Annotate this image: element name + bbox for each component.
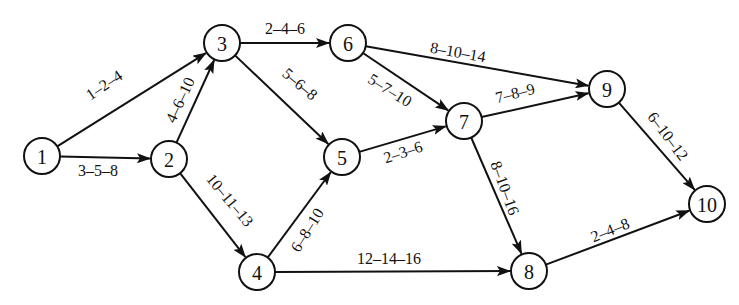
node-7: 7 <box>446 103 482 139</box>
node-2: 2 <box>151 141 187 177</box>
node-5: 5 <box>324 139 360 175</box>
node-label: 2 <box>164 149 174 171</box>
edge-arrow-3-5 <box>235 55 328 144</box>
edge-arrow-4-8 <box>275 271 510 272</box>
node-label: 6 <box>343 33 353 55</box>
node-label: 4 <box>252 262 262 284</box>
edge-label-6-9: 8–10–14 <box>429 39 487 65</box>
pert-network-diagram: 1–2–43–5–84–6–102–4–65–6–810–11–136–8–10… <box>0 0 739 305</box>
edge-label-7-9: 7–8–9 <box>494 80 537 106</box>
node-label: 8 <box>524 261 534 283</box>
edge-arrow-1-2 <box>60 156 150 158</box>
edge-label-4-8: 12–14–16 <box>357 250 421 267</box>
edge-label-5-7: 2–3–6 <box>381 138 424 167</box>
edge-label-3-6: 2–4–6 <box>265 20 305 37</box>
node-1: 1 <box>24 138 60 174</box>
node-6: 6 <box>330 25 366 61</box>
edge-label-9-10: 6–10–12 <box>644 109 691 164</box>
edge-label-2-4: 10–11–13 <box>203 170 257 229</box>
node-label: 1 <box>37 146 47 168</box>
node-4: 4 <box>239 254 275 290</box>
node-label: 3 <box>217 33 227 55</box>
edge-label-6-7: 5–7–10 <box>365 70 415 110</box>
node-8: 8 <box>511 253 547 289</box>
node-label: 7 <box>459 111 469 133</box>
node-3: 3 <box>204 25 240 61</box>
edge-label-1-3: 1–2–4 <box>83 67 126 103</box>
edge-label-4-5: 6–8–10 <box>287 205 327 255</box>
edge-label-1-2: 3–5–8 <box>78 162 118 179</box>
node-label: 9 <box>602 79 612 101</box>
edge-label-2-3: 4–6–10 <box>162 75 198 126</box>
node-label: 10 <box>697 194 717 216</box>
edge-label-3-5: 5–6–8 <box>279 65 321 104</box>
node-10: 10 <box>689 186 725 222</box>
node-9: 9 <box>589 71 625 107</box>
node-label: 5 <box>337 147 347 169</box>
